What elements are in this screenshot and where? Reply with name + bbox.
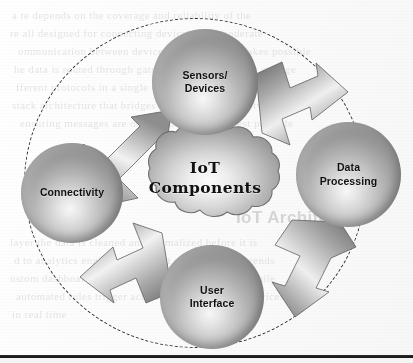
node-data-processing-label-line1: Data [316,161,382,174]
node-connectivity-label-line1: Connectivity [36,186,108,199]
cloud-label-line2: Components [149,178,262,198]
page-bottom-edge [0,358,413,363]
cloud-label-line1: IoT [190,158,220,178]
node-user-interface-label-line1: User [186,284,239,297]
node-user-interface[interactable]: User Interface [160,245,264,349]
node-sensors-devices[interactable]: Sensors/ Devices [152,29,258,135]
node-connectivity[interactable]: Connectivity [21,143,123,243]
scanned-diagram-page: a te depends on the coverage and reliabi… [0,0,413,363]
node-sensors-devices-label-line2: Devices [178,82,231,95]
node-data-processing[interactable]: Data Processing [296,122,401,227]
node-data-processing-label-line2: Processing [316,175,382,188]
arrow-data-to-ui [272,220,356,317]
node-sensors-devices-label-line1: Sensors/ [178,69,231,82]
node-user-interface-label-line2: Interface [186,297,239,310]
